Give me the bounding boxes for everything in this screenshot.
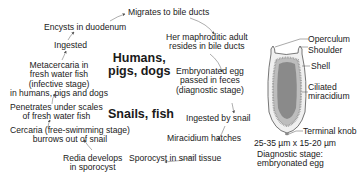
arrow-egg-to-snail <box>232 103 234 113</box>
step-redia-line2: in sporocyst <box>63 163 122 172</box>
egg-label-terminal-knob: Terminal knob <box>303 127 357 136</box>
step-sporocyst: Sporocyst in snail tissue <box>129 154 221 163</box>
egg-label-shell: Shell <box>311 62 330 71</box>
step-embryonated-egg: Embryonated egg passed in feces (diagnos… <box>176 67 244 95</box>
intermediate-host-label: Snails, fish <box>108 108 174 121</box>
egg-diagnostic-stage: Diagnostic stage: embryonated egg <box>257 150 324 169</box>
egg-illustration <box>268 46 306 135</box>
step-redia: Redia develops in sporocyst <box>63 154 122 173</box>
egg-label-operculum: Operculum <box>308 35 350 44</box>
egg-label-ciliated-line2: miracidium <box>308 92 350 101</box>
step-migrates: Migrates to bile ducts <box>128 8 209 17</box>
step-miracidium-hatches: Miracidium hatches <box>167 134 241 143</box>
definitive-host-line2: pigs, dogs <box>108 65 171 78</box>
step-meta-line4: in humans, pigs and dogs <box>10 89 108 98</box>
step-cercaria: Cercaria (free-swimming stage) burrows o… <box>10 126 130 145</box>
egg-size: 25-35 µm x 15-20 µm <box>254 139 336 148</box>
step-penetrates: Penetrates under scales of fresh water f… <box>10 103 103 122</box>
arrow-meta-to-ingested <box>62 51 66 60</box>
arrow-encysts-to-migrates <box>110 14 125 21</box>
step-egg-line3: (diagnostic stage) <box>176 86 244 95</box>
arrow-ingested-to-encysts <box>68 32 74 40</box>
definitive-host-label: Humans, pigs, dogs <box>108 52 171 78</box>
step-ingested: Ingested <box>54 41 87 50</box>
egg-label-ciliated-miracidium: Ciliated miracidium <box>308 83 350 102</box>
step-penetrates-line2: of fresh water fish <box>10 112 103 121</box>
step-adult: Her maphroditic adult resides in bile du… <box>166 33 248 52</box>
egg-diagnostic-line2: embryonated egg <box>257 159 324 168</box>
step-ingested-by-snail: Ingested by snail <box>186 114 251 123</box>
step-metacercaria: Metacercaria in fresh water fish (infect… <box>10 61 108 99</box>
step-cercaria-line2: burrows out of snail <box>10 135 130 144</box>
egg-label-shoulder: Shoulder <box>308 46 342 55</box>
step-encysts: Encysts in duodenum <box>44 23 126 32</box>
step-adult-line2: resides in bile ducts <box>166 42 248 51</box>
